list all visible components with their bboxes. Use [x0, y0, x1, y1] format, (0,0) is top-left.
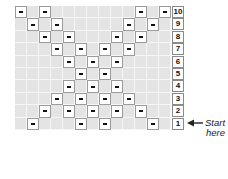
- purl-stitch-cell: [39, 6, 51, 18]
- knit-stitch-cell: [123, 31, 135, 43]
- purl-stitch-cell: [75, 93, 87, 105]
- knit-stitch-cell: [159, 105, 171, 117]
- here-text: here: [205, 128, 225, 138]
- purl-stitch-cell: [147, 118, 159, 130]
- purl-stitch-cell: [75, 118, 87, 130]
- purl-stitch-cell: [87, 80, 99, 92]
- purl-stitch-cell: [123, 18, 135, 30]
- purl-stitch-cell: [63, 105, 75, 117]
- chart-row: 9: [15, 18, 184, 30]
- row-number: 7: [172, 43, 184, 55]
- purl-stitch-cell: [75, 43, 87, 55]
- knit-stitch-cell: [99, 18, 111, 30]
- knit-stitch-cell: [99, 105, 111, 117]
- knit-stitch-cell: [39, 68, 51, 80]
- purl-stitch-cell: [87, 56, 99, 68]
- purl-stitch-cell: [135, 31, 147, 43]
- knit-stitch-cell: [147, 80, 159, 92]
- purl-stitch-cell: [75, 68, 87, 80]
- knit-stitch-cell: [135, 80, 147, 92]
- knit-stitch-cell: [135, 68, 147, 80]
- start-here-annotation: Start here: [187, 117, 225, 138]
- knit-stitch-cell: [123, 105, 135, 117]
- knit-stitch-cell: [27, 56, 39, 68]
- knit-stitch-cell: [99, 56, 111, 68]
- knit-stitch-cell: [123, 118, 135, 130]
- knit-stitch-cell: [39, 18, 51, 30]
- knit-stitch-cell: [87, 118, 99, 130]
- knit-stitch-cell: [87, 43, 99, 55]
- knit-stitch-cell: [51, 118, 63, 130]
- row-number: 8: [172, 31, 184, 43]
- row-number: 3: [172, 93, 184, 105]
- knit-stitch-cell: [15, 43, 27, 55]
- knit-stitch-cell: [111, 68, 123, 80]
- knit-stitch-cell: [87, 93, 99, 105]
- knitting-chart: 10987654321: [15, 6, 184, 130]
- knit-stitch-cell: [51, 105, 63, 117]
- purl-stitch-cell: [39, 105, 51, 117]
- purl-stitch-cell: [159, 6, 171, 18]
- knit-stitch-cell: [27, 31, 39, 43]
- knit-stitch-cell: [63, 6, 75, 18]
- knit-stitch-cell: [147, 43, 159, 55]
- knit-stitch-cell: [147, 31, 159, 43]
- knit-stitch-cell: [51, 31, 63, 43]
- knit-stitch-cell: [15, 18, 27, 30]
- chart-row: 5: [15, 68, 184, 80]
- knit-stitch-cell: [147, 56, 159, 68]
- knit-stitch-cell: [39, 93, 51, 105]
- chart-row: 7: [15, 43, 184, 55]
- knit-stitch-cell: [39, 43, 51, 55]
- knit-stitch-cell: [111, 18, 123, 30]
- knit-stitch-cell: [51, 6, 63, 18]
- knit-stitch-cell: [51, 56, 63, 68]
- chart-row: 3: [15, 93, 184, 105]
- knit-stitch-cell: [147, 6, 159, 18]
- knit-stitch-cell: [27, 80, 39, 92]
- knit-stitch-cell: [159, 18, 171, 30]
- knit-stitch-cell: [123, 68, 135, 80]
- purl-stitch-cell: [99, 93, 111, 105]
- knit-stitch-cell: [87, 6, 99, 18]
- knit-stitch-cell: [159, 93, 171, 105]
- row-number: 5: [172, 68, 184, 80]
- purl-stitch-cell: [135, 6, 147, 18]
- purl-stitch-cell: [99, 43, 111, 55]
- purl-stitch-cell: [87, 105, 99, 117]
- knit-stitch-cell: [15, 80, 27, 92]
- knit-stitch-cell: [27, 105, 39, 117]
- purl-stitch-cell: [147, 18, 159, 30]
- knit-stitch-cell: [111, 43, 123, 55]
- knit-stitch-cell: [159, 118, 171, 130]
- purl-stitch-cell: [27, 118, 39, 130]
- purl-stitch-cell: [27, 18, 39, 30]
- purl-stitch-cell: [51, 18, 63, 30]
- chart-row: 8: [15, 31, 184, 43]
- knit-stitch-cell: [75, 31, 87, 43]
- row-number: 9: [172, 18, 184, 30]
- purl-stitch-cell: [99, 68, 111, 80]
- knit-stitch-cell: [63, 43, 75, 55]
- purl-stitch-cell: [39, 31, 51, 43]
- knit-stitch-cell: [99, 80, 111, 92]
- purl-stitch-cell: [51, 43, 63, 55]
- left-arrow-icon: [187, 117, 203, 129]
- knit-stitch-cell: [27, 68, 39, 80]
- knit-stitch-cell: [15, 93, 27, 105]
- knit-stitch-cell: [15, 56, 27, 68]
- knit-stitch-cell: [63, 18, 75, 30]
- purl-stitch-cell: [111, 80, 123, 92]
- knit-stitch-cell: [75, 6, 87, 18]
- purl-stitch-cell: [63, 56, 75, 68]
- knit-stitch-cell: [159, 43, 171, 55]
- knit-stitch-cell: [15, 68, 27, 80]
- knit-stitch-cell: [159, 31, 171, 43]
- knit-stitch-cell: [27, 43, 39, 55]
- knit-stitch-cell: [39, 80, 51, 92]
- purl-stitch-cell: [123, 93, 135, 105]
- knit-stitch-cell: [111, 118, 123, 130]
- knit-stitch-cell: [87, 18, 99, 30]
- chart-row: 4: [15, 80, 184, 92]
- row-number: 4: [172, 80, 184, 92]
